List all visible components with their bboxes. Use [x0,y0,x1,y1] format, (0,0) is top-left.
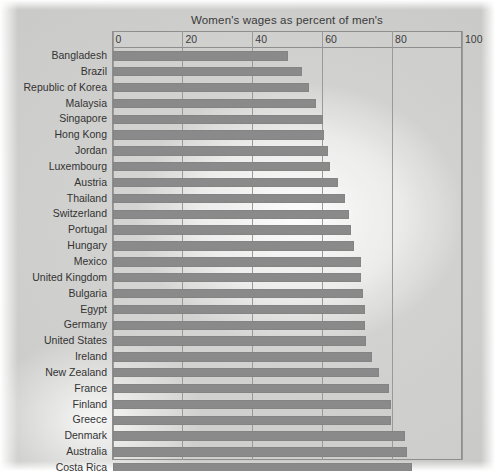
category-label-ireland: Ireland [75,350,107,363]
bar-united-kingdom [113,273,361,282]
bar-united-states [113,336,366,345]
bar-row: Australia [0,444,495,460]
bar-france [113,384,389,393]
bar-row: Denmark [0,428,495,444]
category-label-denmark: Denmark [64,429,107,442]
bar-row: Ireland [0,349,495,365]
bar-row: Brazil [0,64,495,80]
chart-title: Women's wages as percent of men's [112,14,462,26]
category-label-malaysia: Malaysia [66,97,107,110]
bar-row: France [0,381,495,397]
x-tick-label-40: 40 [252,33,267,45]
bar-row: Republic of Korea [0,80,495,96]
category-label-austria: Austria [74,176,107,189]
bar-row: Finland [0,397,495,413]
category-label-luxembourg: Luxembourg [49,160,107,173]
bar-switzerland [113,210,349,219]
category-label-united-states: United States [44,334,107,347]
category-label-switzerland: Switzerland [53,207,107,220]
bar-singapore [113,115,323,124]
category-label-bulgaria: Bulgaria [68,287,107,300]
bar-row: Mexico [0,254,495,270]
bar-germany [113,321,365,330]
bar-malaysia [113,99,316,108]
bar-row: Luxembourg [0,159,495,175]
bar-row: Malaysia [0,96,495,112]
category-label-hong-kong: Hong Kong [54,128,107,141]
bar-australia [113,447,407,456]
bar-row: Jordan [0,143,495,159]
bar-rows: BangladeshBrazilRepublic of KoreaMalaysi… [0,48,495,471]
category-label-finland: Finland [73,398,107,411]
bar-row: Bulgaria [0,286,495,302]
x-tick-label-20: 20 [182,33,197,45]
bar-bangladesh [113,51,288,60]
category-label-brazil: Brazil [81,65,107,78]
bar-new-zealand [113,368,379,377]
x-axis-band [112,31,462,48]
bar-brazil [113,67,302,76]
category-label-jordan: Jordan [75,144,107,157]
bar-thailand [113,194,345,203]
x-tick-label-0: 0 [113,33,122,45]
category-label-france: France [74,382,107,395]
bar-portugal [113,225,351,234]
bar-row: Austria [0,175,495,191]
bar-row: Thailand [0,191,495,207]
bar-row: United States [0,333,495,349]
category-label-costa-rica: Costa Rica [56,461,107,471]
bar-republic-of-korea [113,83,309,92]
bar-row: Costa Rica [0,460,495,471]
bar-mexico [113,257,361,266]
bar-row: Portugal [0,222,495,238]
x-tick-label-100: 100 [462,33,483,45]
bar-costa-rica [113,463,412,471]
category-label-hungary: Hungary [67,239,107,252]
bar-egypt [113,305,365,314]
bar-row: United Kingdom [0,270,495,286]
bar-jordan [113,146,328,155]
chart-page: Women's wages as percent of men's 020406… [0,0,495,471]
bar-hong-kong [113,130,324,139]
bar-denmark [113,431,405,440]
bar-row: New Zealand [0,365,495,381]
bar-bulgaria [113,289,363,298]
category-label-singapore: Singapore [59,112,107,125]
category-label-thailand: Thailand [67,192,107,205]
category-label-united-kingdom: United Kingdom [32,271,107,284]
bar-finland [113,400,391,409]
bar-luxembourg [113,162,330,171]
bar-row: Singapore [0,111,495,127]
category-label-portugal: Portugal [68,223,107,236]
bar-hungary [113,241,354,250]
bar-row: Hungary [0,238,495,254]
category-label-australia: Australia [66,445,107,458]
bar-row: Greece [0,412,495,428]
bar-row: Switzerland [0,206,495,222]
bar-row: Bangladesh [0,48,495,64]
bar-austria [113,178,338,187]
category-label-greece: Greece [73,413,107,426]
x-tick-label-80: 80 [392,33,407,45]
bar-row: Egypt [0,302,495,318]
bar-greece [113,416,391,425]
category-label-republic-of-korea: Republic of Korea [24,81,107,94]
category-label-mexico: Mexico [74,255,107,268]
bar-ireland [113,352,372,361]
bar-row: Hong Kong [0,127,495,143]
category-label-new-zealand: New Zealand [45,366,107,379]
category-label-germany: Germany [64,318,107,331]
x-tick-label-60: 60 [322,33,337,45]
category-label-bangladesh: Bangladesh [52,49,107,62]
category-label-egypt: Egypt [80,303,107,316]
bar-chart: Women's wages as percent of men's 020406… [0,0,495,471]
bar-row: Germany [0,317,495,333]
